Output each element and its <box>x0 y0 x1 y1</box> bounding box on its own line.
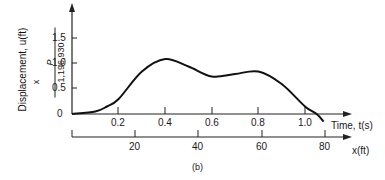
multiplier-denominator: 1,196,930 <box>56 28 66 98</box>
x-tick-label: 0.8 <box>251 117 265 128</box>
x2-axis-label: x(ft) <box>352 145 369 156</box>
x-tick-label: 0.4 <box>158 117 172 128</box>
x2-tick-label: 20 <box>129 141 140 152</box>
x-tick-label: 0.2 <box>111 117 125 128</box>
multiplier-prefix: x <box>31 80 41 85</box>
x-tick-label: 1.0 <box>298 117 312 128</box>
figure-caption: (b) <box>192 162 203 172</box>
time-axis-arrow-icon <box>343 111 352 117</box>
x-axis-label: Time, t(s) <box>331 120 373 131</box>
x-tick-label: 0.6 <box>205 117 219 128</box>
multiplier-numerator: P <box>45 28 56 98</box>
displacement-curve <box>72 59 324 122</box>
y-tick-label: 0 <box>57 108 63 119</box>
x2-tick-label: 60 <box>256 141 267 152</box>
x2-tick-label: 40 <box>192 141 203 152</box>
y-axis-label: Displacement, u(ft) <box>17 10 28 130</box>
distance-axis-arrow-icon <box>343 134 352 140</box>
x2-tick-label: 80 <box>319 141 330 152</box>
y-axis-multiplier: P 1,196,930 <box>45 28 66 98</box>
y-axis-arrow-icon <box>69 3 75 12</box>
